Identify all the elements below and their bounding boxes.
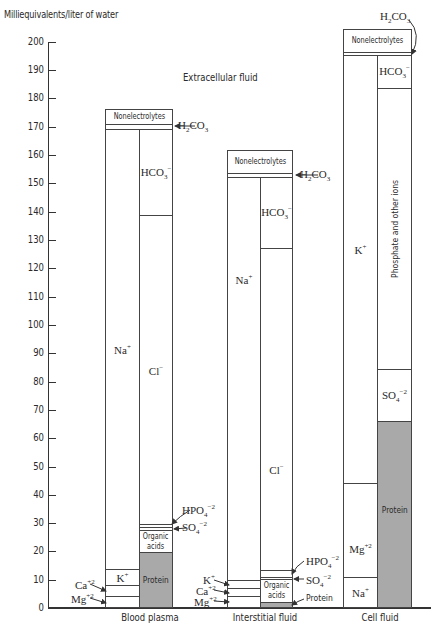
callout-h2co3-cell: H2CO3	[380, 10, 410, 25]
callout-so4-blood: SO4−2	[182, 520, 207, 536]
label-mg: Mg+2	[349, 542, 372, 555]
callout-mg-blood: Mg+2	[71, 592, 94, 605]
label-nonelectrolytes: Nonelectrolytes	[113, 112, 164, 122]
tick-label: 200	[17, 36, 44, 47]
tick-label: 130	[17, 234, 44, 245]
segment-so4: SO4−2	[377, 369, 412, 422]
tick-label: 100	[17, 319, 44, 330]
tick-label: 150	[17, 177, 44, 188]
tick-label: 140	[17, 206, 44, 217]
callout-hpo4-interstitial: HPO4−2	[306, 554, 339, 570]
segment-cl: Cl−	[260, 248, 293, 571]
label-nonelectrolytes: Nonelectrolytes	[352, 36, 403, 46]
label-protein: Protein	[143, 575, 169, 585]
label-organic-acids: Organicacids	[264, 581, 290, 601]
segment-k: K+	[343, 55, 378, 484]
segment-protein: Protein	[377, 421, 412, 608]
tick-label: 50	[17, 461, 44, 472]
segment-cl: Cl−	[139, 215, 173, 525]
segment-organic-acids: Organicacids	[260, 579, 293, 603]
tick-label: 90	[17, 347, 44, 358]
segment-protein: Protein	[139, 552, 173, 608]
label-hco3: HCO3−	[261, 205, 292, 221]
tick-label: 190	[17, 64, 44, 75]
tick-label: 20	[17, 545, 44, 556]
label-hco3: HCO3−	[379, 64, 410, 80]
segment-nonelectrolytes: Nonelectrolytes	[227, 150, 293, 174]
label-na: Na+	[114, 343, 131, 356]
tick-label: 40	[17, 489, 44, 500]
tick-label: 160	[17, 149, 44, 160]
callout-ca-blood: Ca+2	[75, 578, 95, 591]
label-organic-acids: Organicacids	[143, 532, 169, 552]
label-hco3: HCO3−	[141, 165, 172, 181]
tick-label: 80	[17, 376, 44, 387]
segment-mg	[105, 596, 140, 608]
callout-h2co3-interstitial: H2CO3	[300, 168, 330, 183]
tick-label: 0	[17, 602, 44, 613]
x-label-cell-fluid: Cell fluid	[355, 612, 406, 623]
segment-organic-acids: Organicacids	[139, 530, 173, 553]
label-k: K+	[355, 243, 367, 256]
label-phosphate: Phosphate and other ions	[390, 180, 400, 278]
callout-h2co3-blood: H2CO3	[178, 119, 208, 134]
segment-hco3: HCO3−	[260, 177, 293, 249]
label-cl: Cl−	[149, 364, 163, 377]
tick-label: 30	[17, 517, 44, 528]
callout-protein-interstitial: Protein	[306, 593, 333, 603]
tick-label: 120	[17, 262, 44, 273]
label-na: Na+	[352, 586, 369, 599]
segment-mg: Mg+2	[343, 483, 378, 578]
label-protein: Protein	[382, 505, 408, 515]
segment-mg	[227, 596, 261, 608]
label-nonelectrolytes: Nonelectrolytes	[234, 157, 285, 167]
segment-phosphate: Phosphate and other ions	[377, 88, 412, 370]
tick-label: 70	[17, 404, 44, 415]
tick-label: 110	[17, 291, 44, 302]
label-so4: SO4−2	[382, 388, 407, 404]
label-k: K+	[117, 571, 129, 584]
segment-na: Na+	[105, 129, 140, 570]
segment-protein	[260, 602, 293, 608]
segment-nonelectrolytes: Nonelectrolytes	[105, 109, 173, 125]
tick-label: 170	[17, 121, 44, 132]
callout-hpo4-blood: HPO4−2	[182, 503, 215, 519]
segment-hco3: HCO3−	[139, 129, 173, 216]
callout-mg-interstitial: Mg+2	[194, 595, 217, 608]
tick-label: 10	[17, 574, 44, 585]
x-label-interstitial-fluid: Interstitial fluid	[223, 612, 308, 623]
segment-hco3: HCO3−	[377, 55, 412, 89]
label-na: Na+	[236, 273, 253, 286]
y-axis-label: Milliequivalents/liter of water	[4, 9, 118, 20]
callout-so4-interstitial: SO4−2	[306, 573, 331, 589]
segment-nonelectrolytes: Nonelectrolytes	[343, 29, 412, 53]
segment-na: Na+	[343, 577, 378, 608]
x-label-blood-plasma: Blood plasma	[116, 612, 184, 623]
tick-label: 60	[17, 432, 44, 443]
tick-label: 180	[17, 92, 44, 103]
label-cl: Cl−	[269, 463, 283, 476]
segment-k: K+	[105, 569, 140, 586]
region-label-extracellular: Extracellular fluid	[183, 72, 258, 83]
segment-na: Na+	[227, 177, 261, 581]
